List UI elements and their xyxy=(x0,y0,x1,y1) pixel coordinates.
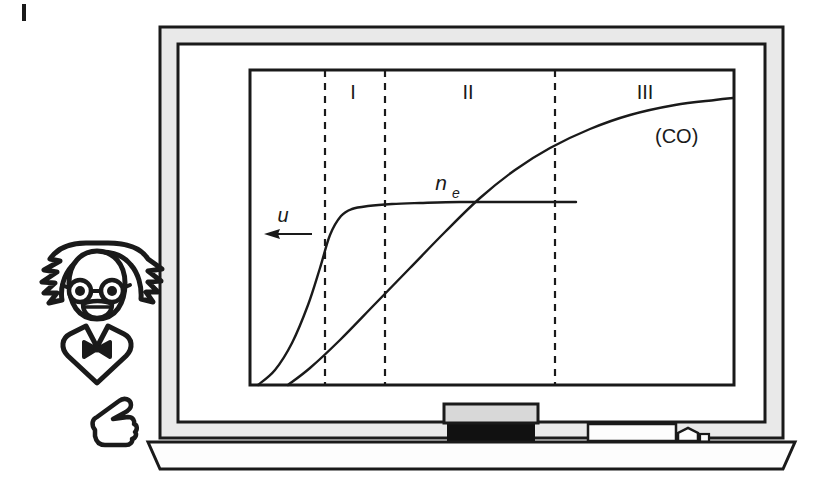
glasses-right-arm xyxy=(123,285,130,288)
page-caption-marker xyxy=(22,4,26,21)
flow-velocity-label: u xyxy=(277,204,288,226)
plot-region: I II III n e (CO) u xyxy=(250,70,734,385)
chalkboard: I II III n e (CO) u xyxy=(160,27,783,438)
curve-label-ne-symbol: n xyxy=(435,171,447,194)
curve-label-ne-subscript: e xyxy=(452,185,460,201)
chalk-stick-long xyxy=(588,424,676,441)
plot-axes-frame xyxy=(250,70,734,385)
glasses-left-arm xyxy=(62,285,69,288)
bow-tie-knot xyxy=(94,346,101,353)
blackboard-scene-svg: I II III n e (CO) u xyxy=(0,0,834,497)
board-bottom-ledge xyxy=(148,442,795,469)
zone-label-2: II xyxy=(462,81,473,103)
eye-right-pupil xyxy=(107,286,117,296)
zone-label-3: III xyxy=(637,81,654,103)
curve-label-co: (CO) xyxy=(655,125,698,147)
figure-canvas: I II III n e (CO) u xyxy=(0,0,834,497)
mouth xyxy=(83,301,112,318)
eraser-body xyxy=(444,404,538,423)
zone-label-1: I xyxy=(350,81,356,103)
eye-left-pupil xyxy=(75,286,85,296)
